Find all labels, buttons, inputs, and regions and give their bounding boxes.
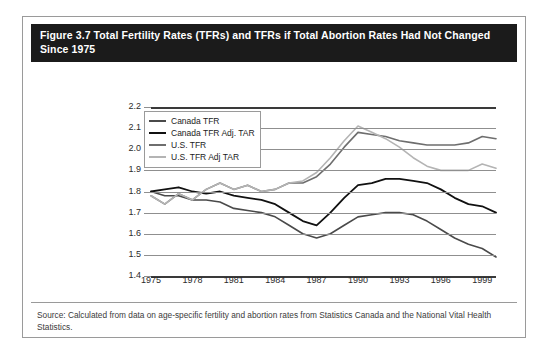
x-axis-label: 1984	[255, 275, 295, 285]
chart-svg	[31, 69, 517, 291]
legend-item: Canada TFR Adj. TAR	[149, 127, 256, 139]
y-axis-tick	[144, 234, 151, 235]
legend-item-label: U.S. TFR	[171, 140, 206, 150]
y-axis-label: 2.1	[115, 123, 141, 132]
y-axis-label: 1.9	[115, 165, 141, 174]
x-axis-label: 1981	[214, 275, 254, 285]
gridline	[151, 170, 496, 171]
gridline	[151, 107, 496, 109]
legend-swatch-icon	[149, 144, 166, 146]
y-axis-tick	[144, 213, 151, 214]
x-axis-label: 1996	[421, 275, 461, 285]
page-title: Figure 3.7 Total Fertility Rates (TFRs) …	[40, 29, 508, 56]
y-axis-label: 2.2	[115, 102, 141, 111]
x-axis-label: 1978	[172, 275, 212, 285]
gridline	[151, 192, 496, 193]
legend-item: U.S. TFR Adj TAR	[149, 151, 256, 163]
legend-item-label: U.S. TFR Adj TAR	[171, 152, 239, 162]
legend-swatch-icon	[149, 120, 166, 122]
y-axis-tick	[144, 170, 151, 171]
legend-swatch-icon	[149, 156, 166, 158]
legend-item-label: Canada TFR Adj. TAR	[171, 128, 255, 138]
legend-item: Canada TFR	[149, 115, 256, 127]
chart-plot-area: 2.22.12.01.91.81.71.61.51.4 197519781981…	[31, 69, 517, 291]
y-axis-tick	[144, 192, 151, 193]
y-axis-label: 1.5	[115, 250, 141, 259]
y-axis-label: 1.8	[115, 187, 141, 196]
legend-item: U.S. TFR	[149, 139, 256, 151]
y-axis-tick	[144, 107, 151, 108]
x-axis-label: 1990	[338, 275, 378, 285]
chart-series-line	[151, 192, 496, 257]
source-divider	[31, 302, 517, 303]
x-axis-label: 1987	[297, 275, 337, 285]
y-axis-label: 2.0	[115, 144, 141, 153]
chart-legend: Canada TFRCanada TFR Adj. TARU.S. TFRU.S…	[144, 111, 261, 168]
legend-item-label: Canada TFR	[171, 116, 220, 126]
x-axis-label: 1993	[379, 275, 419, 285]
gridline	[151, 234, 496, 235]
x-axis-label: 1999	[462, 275, 502, 285]
y-axis-tick	[144, 255, 151, 256]
y-axis-label: 1.6	[115, 229, 141, 238]
y-axis-label: 1.7	[115, 208, 141, 217]
gridline	[151, 255, 496, 256]
source-note: Source: Calculated from data on age-spec…	[37, 309, 513, 333]
figure-title-bar: Figure 3.7 Total Fertility Rates (TFRs) …	[31, 24, 517, 62]
figure-card: Figure 3.7 Total Fertility Rates (TFRs) …	[22, 16, 526, 338]
chart-series-line	[151, 179, 496, 225]
gridline	[151, 213, 496, 214]
x-axis-label: 1975	[131, 275, 171, 285]
legend-swatch-icon	[149, 132, 166, 134]
